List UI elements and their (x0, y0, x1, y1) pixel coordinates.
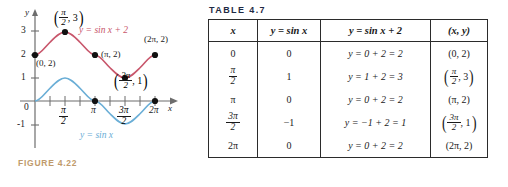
dot-pi2-3 (62, 29, 68, 35)
y-tick-label-2: 2 (21, 49, 26, 59)
annotation-3pi2-1: ( 3π2 , 1 ) (113, 71, 149, 91)
dot-pi-2 (92, 52, 98, 58)
values-table: x y = sin x y = sin x + 2 (x, y) 0 0 y =… (208, 19, 488, 158)
cell-sin-x: −1 (258, 111, 321, 134)
cell-xy: ( π2 , 3 ) (431, 65, 488, 88)
table-header-row: x y = sin x y = sin x + 2 (x, y) (209, 20, 488, 42)
cell-sin-x: 1 (258, 65, 321, 88)
origin-label: 0 (24, 102, 29, 112)
figure-panel: y x 3 2 1 -1 0 π2 π 3π2 2π y = sin x + 2… (0, 0, 206, 187)
paren-close: ) (471, 113, 476, 132)
col-header-sin-x-2: y = sin x + 2 (321, 20, 431, 42)
paren-open: ( (114, 71, 119, 90)
frac-den: 2 (59, 18, 68, 27)
cell-x: π2 (209, 65, 258, 88)
cell-sin-x: 0 (258, 88, 321, 111)
cell-xy-y: , 1 (461, 117, 471, 128)
x-tick-label-pi: π (91, 105, 96, 115)
dot-pi-0 (92, 98, 98, 104)
annotation-pi2-3: ( π2 , 3 ) (53, 8, 84, 28)
curve-label-sin-x: y = sin x (80, 130, 113, 140)
frac-den: 2 (229, 77, 238, 87)
cell-xy: ( 3π2 , 1 ) (431, 111, 488, 134)
x-tick-label-pi-over-2: π2 (59, 106, 68, 127)
frac-den: 2 (447, 123, 460, 132)
frac-den: 2 (117, 117, 131, 127)
col-header-xy: (x, y) (431, 20, 488, 42)
cell-x: 3π2 (209, 111, 258, 134)
cell-x: 2π (209, 134, 258, 158)
table-panel: TABLE 4.7 x y = sin x y = sin x + 2 (x, … (208, 0, 490, 158)
cell-expr: y = 0 + 2 = 2 (321, 134, 431, 158)
table-row: π2 1 y = 1 + 2 = 3 ( π2 , 3 ) (209, 65, 488, 88)
cell-expr: y = 1 + 2 = 3 (321, 65, 431, 88)
table-row: 3π2 −1 y = −1 + 2 = 1 ( 3π2 , 1 ) (209, 111, 488, 134)
paren-close: ) (79, 8, 84, 27)
annotation-y: , 3 (68, 12, 78, 23)
dot-2pi-0 (152, 98, 158, 104)
table-body: 0 0 y = 0 + 2 = 2 (0, 2) π2 1 y = 1 + 2 … (209, 42, 488, 158)
table-row: π 0 y = 0 + 2 = 2 (π, 2) (209, 88, 488, 111)
x-tick-label-2pi: 2π (149, 105, 159, 115)
cell-xy: (2π, 2) (431, 134, 488, 158)
y-axis-label: y (25, 7, 29, 17)
dot-2pi-2 (152, 52, 158, 58)
cell-x: 0 (209, 42, 258, 66)
x-axis-label: x (168, 103, 172, 113)
col-header-sin-x: y = sin x (258, 20, 321, 42)
cell-xy: (0, 2) (431, 42, 488, 66)
y-tick-label-1: 1 (21, 72, 26, 82)
paren-open: ( (444, 67, 449, 86)
table-row: 2π 0 y = 0 + 2 = 2 (2π, 2) (209, 134, 488, 158)
y-axis-arrow (32, 9, 38, 16)
cell-sin-x: 0 (258, 42, 321, 66)
table-row: 0 0 y = 0 + 2 = 2 (0, 2) (209, 42, 488, 66)
paren-close: ) (143, 71, 148, 90)
cell-xy: (π, 2) (431, 88, 488, 111)
annotation-0-2: (0, 2) (36, 58, 56, 68)
cell-sin-x: 0 (258, 134, 321, 158)
table-header: x y = sin x y = sin x + 2 (x, y) (209, 20, 488, 42)
cell-expr: y = 0 + 2 = 2 (321, 88, 431, 111)
annotation-y: , 1 (132, 75, 142, 86)
frac-den: 2 (119, 81, 132, 90)
table-caption: TABLE 4.7 (208, 0, 490, 19)
paren-open: ( (54, 8, 59, 27)
x-tick-label-3pi-over-2: 3π2 (117, 106, 131, 127)
curve-label-sin-x-plus-2: y = sin x + 2 (79, 25, 128, 35)
paren-close: ) (469, 67, 474, 86)
y-tick-label-neg1: -1 (17, 119, 25, 129)
cell-x: π (209, 88, 258, 111)
y-tick-label-3: 3 (21, 25, 26, 35)
cell-xy-y: , 3 (458, 71, 468, 82)
frac-den: 2 (450, 77, 459, 86)
figure-caption: FIGURE 4.22 (18, 158, 77, 168)
cell-expr: y = −1 + 2 = 1 (321, 111, 431, 134)
paren-open: ( (442, 113, 447, 132)
frac-den: 2 (226, 123, 240, 133)
annotation-2pi-2: (2π, 2) (144, 34, 168, 44)
frac-den: 2 (59, 117, 68, 127)
annotation-pi-2: (π, 2) (101, 49, 121, 59)
cell-expr: y = 0 + 2 = 2 (321, 42, 431, 66)
col-header-x: x (209, 20, 258, 42)
